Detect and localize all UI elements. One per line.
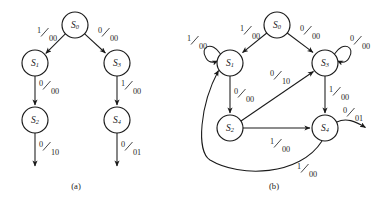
edge-label-a-s1-s2: 0 00 bbox=[39, 79, 59, 96]
figure-container: S0 S1 S3 S2 S4 1 00 bbox=[0, 0, 373, 201]
svg-text:00: 00 bbox=[133, 87, 141, 96]
svg-text:10: 10 bbox=[282, 77, 290, 86]
svg-text:0: 0 bbox=[343, 106, 347, 115]
svg-text:00: 00 bbox=[246, 95, 254, 104]
edge-label-a-s3-s4: 1 00 bbox=[121, 79, 141, 96]
svg-text:1: 1 bbox=[270, 137, 274, 146]
edge-label-a-s0-s3: 0 00 bbox=[98, 26, 118, 43]
svg-text:00: 00 bbox=[252, 32, 260, 41]
svg-text:01: 01 bbox=[133, 148, 141, 157]
edge-label-b-s3-s4: 1 00 bbox=[329, 85, 349, 102]
edge-label-b-s1-self: 1 00 bbox=[187, 34, 207, 51]
svg-text:00: 00 bbox=[49, 34, 57, 43]
svg-text:1: 1 bbox=[187, 34, 191, 43]
node-b-s0[interactable]: S0 bbox=[264, 12, 290, 38]
node-b-s4[interactable]: S4 bbox=[312, 115, 338, 141]
svg-text:0: 0 bbox=[98, 26, 102, 35]
svg-text:0: 0 bbox=[39, 79, 43, 88]
svg-text:0: 0 bbox=[39, 140, 43, 149]
node-a-s3[interactable]: S3 bbox=[104, 50, 130, 76]
caption-b: (b) bbox=[269, 181, 279, 191]
svg-text:0: 0 bbox=[300, 24, 304, 33]
svg-text:1: 1 bbox=[240, 24, 244, 33]
svg-text:00: 00 bbox=[309, 170, 317, 179]
edge-label-b-s3-self: 0 00 bbox=[350, 34, 370, 51]
edge-label-b-s1-s2: 0 00 bbox=[234, 87, 254, 104]
svg-text:00: 00 bbox=[341, 93, 349, 102]
svg-text:00: 00 bbox=[312, 32, 320, 41]
svg-text:0: 0 bbox=[350, 34, 354, 43]
node-b-s2[interactable]: S2 bbox=[217, 115, 243, 141]
edge-label-b-s4-s1: 1 00 bbox=[297, 162, 317, 179]
edge-label-b-s2-s4: 1 00 bbox=[270, 137, 290, 154]
node-a-s0[interactable]: S0 bbox=[62, 12, 88, 38]
svg-text:00: 00 bbox=[362, 42, 370, 51]
state-diagram-figure: S0 S1 S3 S2 S4 1 00 bbox=[0, 0, 373, 201]
edge-label-a-s2-out: 0 10 bbox=[39, 140, 59, 157]
svg-text:1: 1 bbox=[297, 162, 301, 171]
node-b-s1[interactable]: S1 bbox=[217, 50, 243, 76]
node-a-s2[interactable]: S2 bbox=[22, 107, 48, 133]
svg-text:0: 0 bbox=[121, 140, 125, 149]
caption-a: (a) bbox=[71, 181, 81, 191]
edge-b-s0-s3 bbox=[287, 33, 313, 52]
svg-text:1: 1 bbox=[329, 85, 333, 94]
panel-a: S0 S1 S3 S2 S4 1 00 bbox=[22, 12, 141, 191]
edge-label-b-s2-s3: 0 10 bbox=[270, 69, 290, 86]
svg-text:1: 1 bbox=[37, 26, 41, 35]
svg-text:10: 10 bbox=[51, 148, 59, 157]
svg-text:1: 1 bbox=[121, 79, 125, 88]
svg-text:00: 00 bbox=[282, 145, 290, 154]
panel-b: S0 S1 S3 S2 S4 1 00 bbox=[187, 12, 370, 191]
svg-text:01: 01 bbox=[355, 114, 363, 123]
svg-text:00: 00 bbox=[51, 87, 59, 96]
edge-label-a-s0-s1: 1 00 bbox=[37, 26, 57, 43]
edge-label-b-s0-s3: 0 00 bbox=[300, 24, 320, 41]
svg-text:0: 0 bbox=[270, 69, 274, 78]
edge-label-a-s4-out: 0 01 bbox=[121, 140, 141, 157]
node-a-s4[interactable]: S4 bbox=[104, 107, 130, 133]
svg-text:00: 00 bbox=[199, 42, 207, 51]
node-b-s3[interactable]: S3 bbox=[312, 50, 338, 76]
svg-text:00: 00 bbox=[110, 34, 118, 43]
svg-text:0: 0 bbox=[234, 87, 238, 96]
node-a-s1[interactable]: S1 bbox=[22, 50, 48, 76]
edge-label-b-s0-s1: 1 00 bbox=[240, 24, 260, 41]
